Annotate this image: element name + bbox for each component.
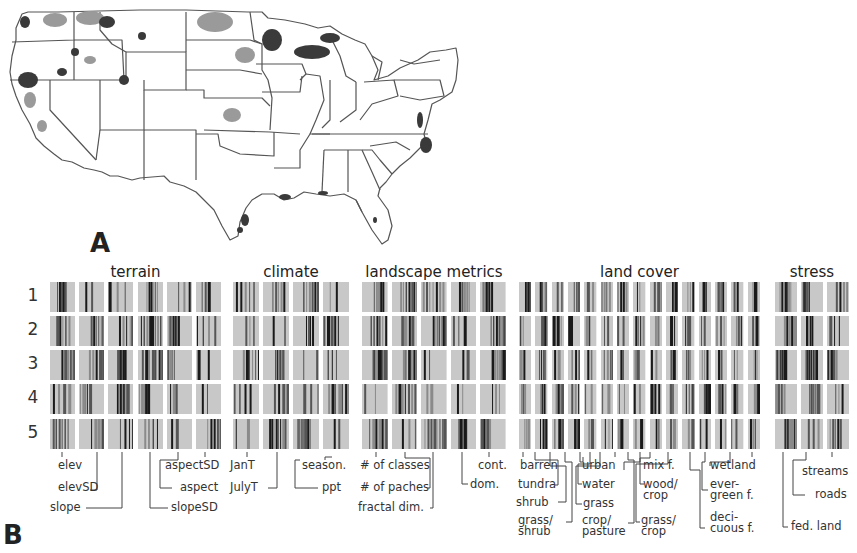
label-mix-forest: mix f. — [643, 459, 675, 472]
label-grass-crop-2: crop — [641, 525, 666, 538]
label-fed-land: fed. land — [791, 520, 842, 533]
label-deciduous-2: cuous f. — [710, 522, 754, 535]
label-num-classes: # of classes — [360, 459, 430, 472]
label-num-patches: # of paches — [360, 481, 429, 494]
label-grass-shrub-2: shrub — [518, 525, 551, 538]
label-water: water — [582, 478, 615, 491]
label-aspect: aspect — [180, 481, 218, 494]
label-elevSD: elevSD — [58, 481, 98, 494]
label-wetland: wetland — [710, 459, 756, 472]
label-slopeSD: slopeSD — [171, 501, 218, 514]
label-evergreen-2: green f. — [710, 489, 754, 502]
label-elev: elev — [58, 459, 82, 472]
label-roads: roads — [815, 488, 847, 501]
label-season: season. — [302, 459, 346, 472]
label-streams: streams — [802, 465, 848, 478]
label-JulyT: JulyT — [230, 481, 258, 494]
label-dom: dom. — [470, 478, 499, 491]
label-wood-crop-2: crop — [643, 489, 668, 502]
label-grass: grass — [583, 497, 614, 510]
label-crop-pasture-2: pasture — [582, 525, 626, 538]
label-urban: urban — [582, 459, 616, 472]
label-shrub: shrub — [516, 496, 549, 509]
label-JanT: JanT — [230, 459, 255, 472]
label-slope: slope — [50, 501, 81, 514]
label-barren: barren — [520, 459, 558, 472]
label-fractal-dim: fractal dim. — [358, 501, 424, 514]
label-aspectSD: aspectSD — [165, 459, 219, 472]
label-tundra: tundra — [518, 478, 556, 491]
label-cont: cont. — [478, 459, 507, 472]
label-ppt: ppt — [322, 481, 341, 494]
